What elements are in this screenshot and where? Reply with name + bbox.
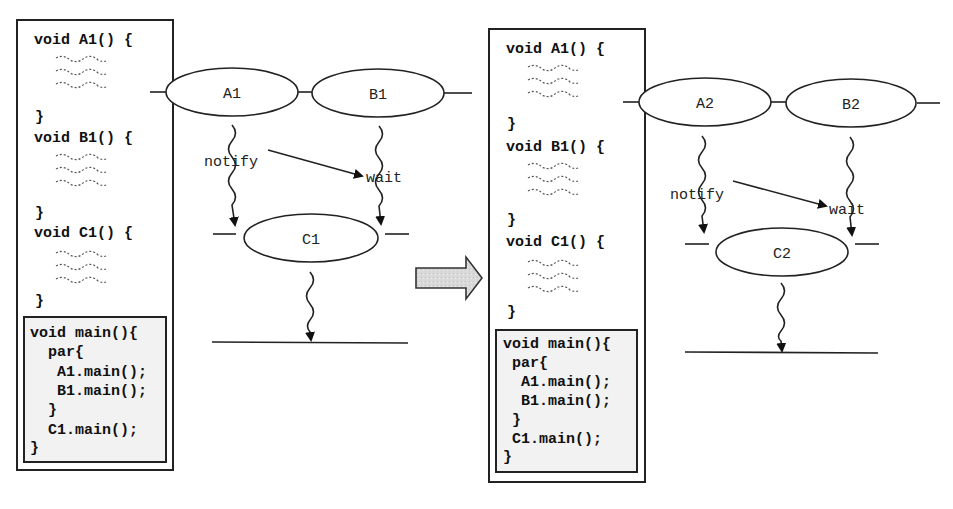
node-label: C1 [302,232,320,249]
notify-label: notify [670,187,724,204]
wait-label: wait [366,170,402,187]
diagram-left [150,68,472,343]
notify-wait-arrow [733,181,826,206]
execution-flow-arrow [847,137,854,235]
execution-flow-arrow [699,136,706,232]
node-label: A2 [696,96,714,113]
process-diagrams: A1 B1 C1 notify wait A2 B2 C2 notify wai… [0,0,953,509]
node-label: B2 [842,97,860,114]
end-timeline [685,352,878,353]
notify-label: notify [204,154,258,171]
execution-flow-arrow [307,272,314,340]
node-label: A1 [223,86,241,103]
wait-label: wait [829,202,865,219]
diagram-right [623,78,940,353]
execution-flow-arrow [229,125,236,225]
node-label: C2 [773,246,791,263]
node-label: B1 [369,87,387,104]
transition-arrow-icon [416,257,482,299]
notify-wait-arrow [268,150,362,176]
execution-flow-arrow [778,283,785,351]
end-timeline [212,342,408,343]
